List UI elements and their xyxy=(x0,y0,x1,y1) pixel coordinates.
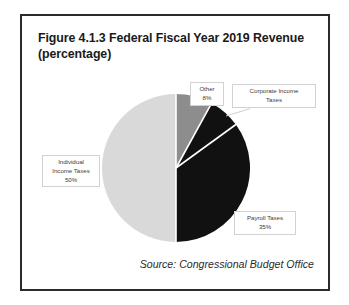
pie-label-individual-income-taxes: Individual Income Taxes 50% xyxy=(42,155,100,187)
pie-chart-area: Other 8% Corporate Income Taxes Individu… xyxy=(22,16,328,289)
source-note: Source: Congressional Budget Office xyxy=(22,258,314,270)
pie-slice-individual-income-taxes xyxy=(102,94,176,242)
pie-label-payroll-taxes: Payroll Taxes 35% xyxy=(234,211,296,235)
leader-line-corporate-income-taxes xyxy=(226,108,250,116)
pie-chart xyxy=(102,94,250,242)
pie-label-corporate-income-taxes: Corporate Income Taxes xyxy=(232,84,316,108)
figure-frame: Figure 4.1.3 Federal Fiscal Year 2019 Re… xyxy=(20,14,330,291)
pie-label-other: Other 8% xyxy=(190,82,224,106)
